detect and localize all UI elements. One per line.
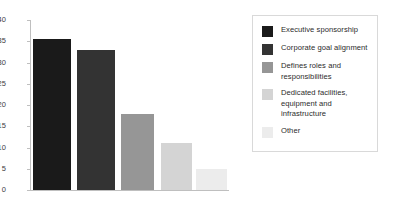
y-axis-tick-label: 0 xyxy=(2,186,6,194)
legend-swatch-icon xyxy=(262,26,273,37)
y-axis-tick-label: 25 xyxy=(0,80,6,88)
y-axis-tick-label: 10 xyxy=(0,144,6,152)
plot-area: 4035302520151050 xyxy=(0,0,240,216)
legend-swatch-icon xyxy=(262,127,273,138)
y-axis-tick-mark xyxy=(27,126,30,127)
y-axis-tick-label: 15 xyxy=(0,122,6,130)
y-axis-line xyxy=(30,20,31,191)
y-axis-tick-mark xyxy=(27,190,30,191)
legend-item: Dedicated facilities, equipment and infr… xyxy=(262,88,369,120)
y-axis-tick-mark xyxy=(27,20,30,21)
legend-item: Corporate goal alignment xyxy=(262,43,369,55)
legend-item-label: Executive sponsorship xyxy=(281,25,358,36)
y-axis-tick-mark xyxy=(27,84,30,85)
y-axis-tick-mark xyxy=(27,148,30,149)
bar xyxy=(196,169,227,190)
legend-item-label: Dedicated facilities, equipment and infr… xyxy=(281,88,369,120)
legend-item-label: Corporate goal alignment xyxy=(281,43,367,54)
legend-item: Other xyxy=(262,126,369,138)
y-axis-tick-mark xyxy=(27,169,30,170)
y-axis-tick-mark xyxy=(27,41,30,42)
y-axis-tick-label: 40 xyxy=(0,16,6,24)
x-axis-line xyxy=(30,190,229,191)
y-axis-tick-label: 35 xyxy=(0,37,6,45)
y-axis-tick-label: 30 xyxy=(0,59,6,67)
y-axis-tick-mark xyxy=(27,105,30,106)
legend-item-label: Other xyxy=(281,126,300,137)
bar-chart-figure: 4035302520151050 Executive sponsorshipCo… xyxy=(0,0,394,216)
legend-swatch-icon xyxy=(262,62,273,73)
chart-legend: Executive sponsorshipCorporate goal alig… xyxy=(252,15,378,152)
legend-item-label: Defines roles and responsibilities xyxy=(281,61,369,82)
legend-item: Executive sponsorship xyxy=(262,25,369,37)
bar xyxy=(77,50,115,190)
legend-swatch-icon xyxy=(262,89,273,100)
y-axis-tick-label: 20 xyxy=(0,101,6,109)
y-axis-tick-mark xyxy=(27,63,30,64)
legend-item: Defines roles and responsibilities xyxy=(262,61,369,82)
legend-swatch-icon xyxy=(262,44,273,55)
y-axis-tick-label: 5 xyxy=(2,165,6,173)
bar xyxy=(121,114,154,191)
bar xyxy=(161,143,192,190)
bar xyxy=(33,39,71,190)
